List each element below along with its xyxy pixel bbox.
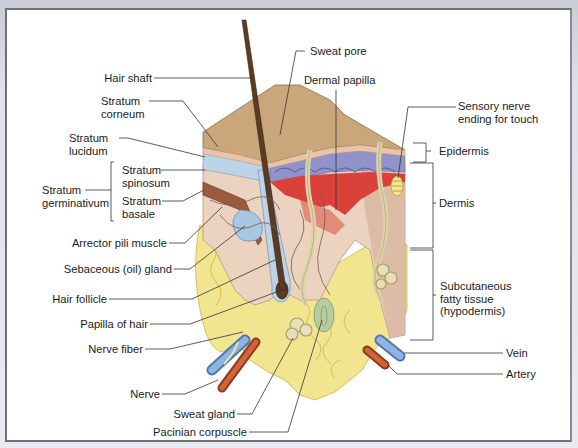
label-line-1: Stratum [42, 184, 109, 197]
label-sebaceous-gland: Sebaceous (oil) gland [20, 263, 172, 276]
label-line-2: fatty tissue [440, 293, 512, 306]
label-line-2: spinosum [122, 177, 170, 190]
label-hair-shaft: Hair shaft [60, 72, 152, 85]
skin-cross-section-illustration [0, 0, 578, 448]
label-papilla-of-hair: Papilla of hair [20, 318, 148, 331]
label-stratum-corneum: Stratum corneum [101, 95, 145, 120]
label-line-1: Stratum [69, 132, 108, 145]
label-line-1: Subcutaneous [440, 280, 512, 293]
label-line-2: corneum [101, 108, 145, 121]
label-epidermis: Epidermis [439, 145, 489, 158]
label-line-2: basale [122, 208, 161, 221]
label-nerve-fiber: Nerve fiber [20, 343, 143, 356]
label-line-1: Stratum [122, 164, 170, 177]
label-line-1: Stratum [122, 195, 161, 208]
label-line-1: Stratum [101, 95, 145, 108]
label-line-2: lucidum [69, 145, 108, 158]
label-sweat-pore: Sweat pore [310, 45, 367, 58]
label-stratum-spinosum: Stratum spinosum [122, 164, 170, 189]
label-sensory-nerve-ending: Sensory nerve ending for touch [458, 100, 538, 125]
label-dermal-papilla: Dermal papilla [304, 74, 376, 87]
label-sweat-gland: Sweat gland [20, 408, 235, 421]
label-line-2: ending for touch [458, 113, 538, 126]
label-hair-follicle: Hair follicle [20, 293, 107, 306]
label-stratum-basale: Stratum basale [122, 195, 161, 220]
label-line-1: Sensory nerve [458, 100, 538, 113]
label-artery: Artery [506, 368, 536, 381]
label-pacinian-corpuscle: Pacinian corpuscle [20, 426, 247, 439]
pacinian-corpuscle [314, 298, 334, 332]
label-arrector-pili: Arrector pili muscle [20, 237, 167, 250]
label-line-2: germinativum [42, 197, 109, 210]
label-dermis: Dermis [439, 197, 474, 210]
label-nerve: Nerve [20, 388, 160, 401]
label-subcutaneous-tissue: Subcutaneous fatty tissue (hypodermis) [440, 280, 512, 318]
label-stratum-lucidum: Stratum lucidum [69, 132, 108, 157]
label-vein: Vein [506, 347, 528, 360]
label-line-3: (hypodermis) [440, 305, 512, 318]
label-stratum-germinativum: Stratum germinativum [42, 184, 109, 209]
